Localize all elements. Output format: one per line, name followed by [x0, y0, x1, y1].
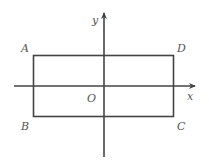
y-axis-label: y	[91, 14, 99, 27]
vertex-d-label: D	[176, 42, 186, 55]
x-axis-label: x	[187, 90, 194, 103]
vertex-c-label: C	[177, 120, 186, 133]
origin-label: O	[87, 92, 96, 105]
diagram-canvas: y x O A D B C	[0, 0, 209, 168]
vertex-b-label: B	[20, 120, 29, 133]
vertex-a-label: A	[20, 42, 29, 55]
